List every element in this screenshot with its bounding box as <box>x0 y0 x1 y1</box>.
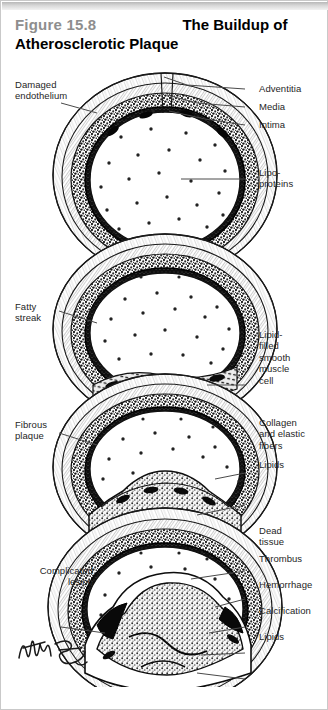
label-lipids-panel-3: Lipids <box>259 459 327 470</box>
figure-title-block: Figure 15.8 The Buildup of Atherosclerot… <box>15 15 315 53</box>
label-complicated-lesion: Complicated lesion <box>7 565 93 588</box>
label-hemorrhage: Hemorrhage <box>259 579 328 590</box>
label-lipids-panel-4: Lipids <box>259 631 327 642</box>
label-lipid-filled-smooth-muscle-cell: Lipid- filled smooth muscle cell <box>259 329 325 386</box>
label-dead-tissue: Dead tissue <box>259 525 325 548</box>
figure-container: Figure 15.8 The Buildup of Atherosclerot… <box>0 0 328 710</box>
label-fatty-streak: Fatty streak <box>15 301 75 324</box>
header-gradient-band <box>2 2 328 10</box>
label-calcification: Calcification <box>259 605 328 616</box>
label-intima: Intima <box>259 119 327 130</box>
label-thrombus: Thrombus <box>259 553 328 564</box>
illustrator-signature <box>15 628 99 672</box>
label-damaged-endothelium: Damaged endothelium <box>15 79 89 102</box>
label-lipoproteins: Lipo- proteins <box>259 167 327 190</box>
label-adventitia: Adventitia <box>259 83 327 94</box>
label-media: Media <box>259 101 327 112</box>
label-collagen-and-elastic-fibers: Collagen and elastic fibers <box>259 417 328 451</box>
label-fibrous-plaque: Fibrous plaque <box>15 419 77 442</box>
figure-number: Figure 15.8 <box>15 15 96 34</box>
